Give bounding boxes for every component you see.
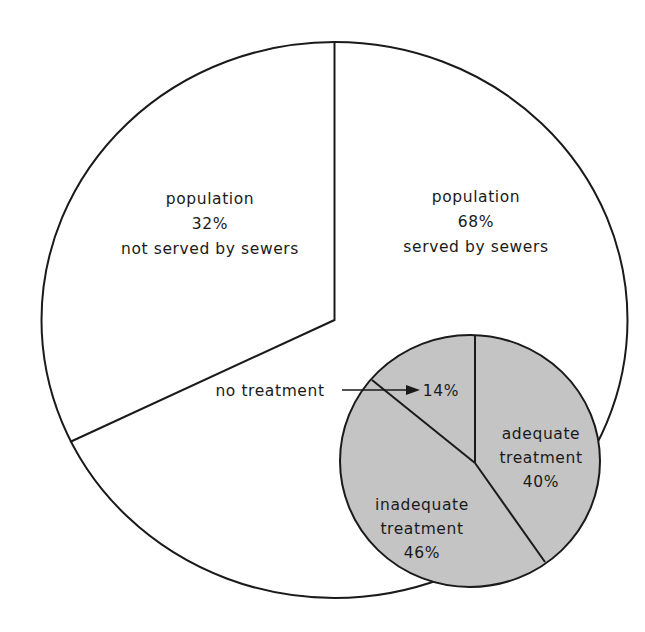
label-not-served-value: 32% bbox=[192, 215, 228, 233]
label-served-line3: served by sewers bbox=[403, 238, 548, 256]
label-adequate-value: 40% bbox=[523, 473, 559, 491]
label-served-line1: population bbox=[432, 188, 520, 206]
label-inadequate-line2: treatment bbox=[380, 520, 463, 538]
label-inadequate-value: 46% bbox=[404, 544, 440, 562]
callout-label: no treatment bbox=[215, 382, 324, 400]
label-adequate-line2: treatment bbox=[499, 449, 582, 467]
pie-chart: population 32% not served by sewers popu… bbox=[0, 0, 645, 632]
label-served-value: 68% bbox=[458, 213, 494, 231]
label-no-treatment-value: 14% bbox=[423, 382, 459, 400]
label-adequate-line1: adequate bbox=[502, 425, 580, 443]
label-inadequate-line1: inadequate bbox=[375, 496, 469, 514]
label-not-served-line3: not served by sewers bbox=[121, 240, 299, 258]
label-not-served-line1: population bbox=[166, 190, 254, 208]
